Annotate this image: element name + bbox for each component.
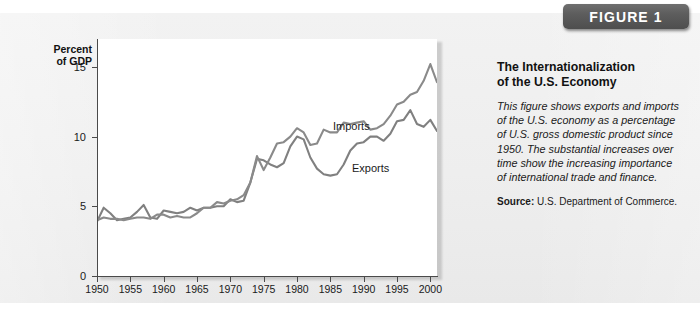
x-tick-1970: [230, 277, 231, 282]
x-tick-label-1975: 1975: [252, 283, 275, 295]
figure-text-column: The Internationalization of the U.S. Eco…: [497, 60, 682, 208]
x-tick-label-1990: 1990: [352, 283, 375, 295]
x-tick-label-1985: 1985: [319, 283, 342, 295]
y-tick-15: [92, 67, 97, 68]
x-tick-2000: [430, 277, 431, 282]
x-tick-label-1980: 1980: [285, 283, 308, 295]
x-tick-label-1960: 1960: [152, 283, 175, 295]
chart-container: Percent of GDP 051015 195019551960196519…: [0, 0, 450, 324]
x-tick-1980: [297, 277, 298, 282]
source-text: U.S. Department of Commerce.: [537, 196, 677, 207]
x-tick-label-1950: 1950: [85, 283, 108, 295]
x-tick-label-1955: 1955: [119, 283, 142, 295]
figure-number-badge: FIGURE 1: [563, 4, 689, 29]
x-tick-label-1995: 1995: [385, 283, 408, 295]
y-tick-10: [92, 137, 97, 138]
x-tick-1975: [264, 277, 265, 282]
x-tick-label-2000: 2000: [419, 283, 442, 295]
figure-root: FIGURE 1 Percent of GDP 051015 195019551…: [0, 0, 700, 324]
x-axis-line: [97, 276, 438, 277]
y-tick-label-5: 5: [58, 200, 86, 212]
source-label: Source:: [497, 196, 534, 207]
figure-source: Source: U.S. Department of Commerce.: [497, 195, 682, 208]
figure-title: The Internationalization of the U.S. Eco…: [497, 60, 682, 90]
y-tick-label-10: 10: [58, 131, 86, 143]
x-tick-label-1965: 1965: [185, 283, 208, 295]
figure-caption: This figure shows exports and imports of…: [497, 99, 682, 184]
y-axis-line: [97, 39, 98, 277]
x-tick-1995: [397, 277, 398, 282]
x-tick-1950: [97, 277, 98, 282]
y-tick-label-15: 15: [58, 61, 86, 73]
figure-title-line1: The Internationalization: [497, 60, 682, 75]
series-lines-svg: [97, 39, 437, 276]
series-label-exports: Exports: [352, 162, 389, 174]
x-tick-1990: [364, 277, 365, 282]
series-label-imports: Imports: [333, 120, 370, 132]
figure-title-line2: of the U.S. Economy: [497, 75, 682, 90]
plot-area: [97, 39, 437, 276]
y-axis-title-line1: Percent: [40, 43, 92, 55]
x-tick-1985: [330, 277, 331, 282]
x-tick-1960: [164, 277, 165, 282]
y-tick-5: [92, 206, 97, 207]
y-tick-label-0: 0: [58, 270, 86, 282]
figure-badge-label: FIGURE 1: [589, 9, 662, 25]
line-imports: [97, 64, 437, 220]
x-tick-label-1970: 1970: [219, 283, 242, 295]
x-tick-1955: [130, 277, 131, 282]
x-tick-1965: [197, 277, 198, 282]
